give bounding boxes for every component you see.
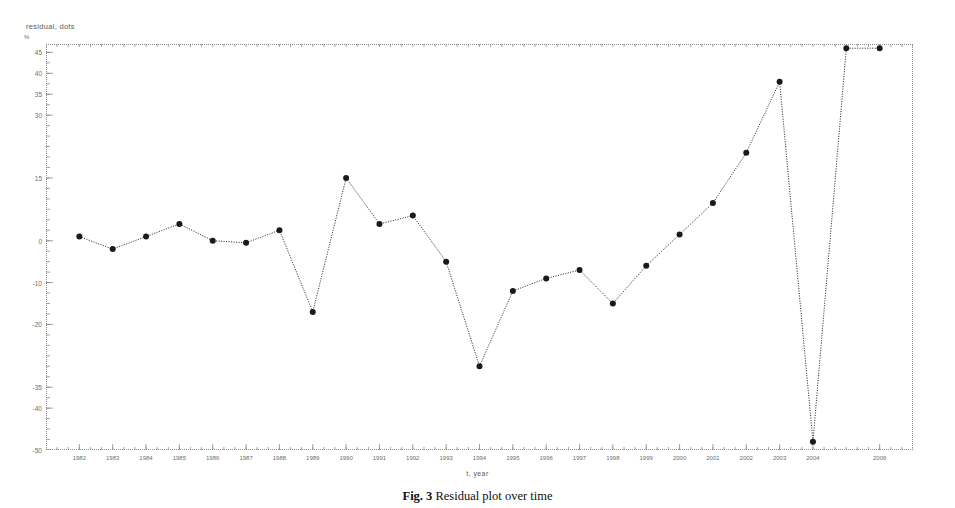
data-point-marker [376, 221, 382, 227]
y-tick-label: -10 [12, 279, 42, 286]
data-line [79, 48, 879, 441]
data-point-marker [777, 79, 783, 85]
residual-line-chart [46, 44, 913, 450]
data-point-marker [810, 439, 816, 445]
data-point-marker [710, 200, 716, 206]
data-point-marker [610, 301, 616, 307]
data-point-marker [343, 175, 349, 181]
y-tick-label: -40 [12, 405, 42, 412]
data-point-marker [310, 309, 316, 315]
y-tick-label: 30 [12, 112, 42, 119]
data-point-marker [677, 231, 683, 237]
data-point-marker [743, 150, 749, 156]
data-point-marker [477, 363, 483, 369]
data-point-marker [110, 246, 116, 252]
x-axis-title: t, year [0, 470, 955, 477]
data-point-marker [210, 238, 216, 244]
y-axis-unit: % [24, 34, 29, 40]
data-point-marker [643, 263, 649, 269]
y-tick-label: -35 [12, 384, 42, 391]
caption-label: Fig. 3 [403, 489, 433, 503]
y-tick-label: -20 [12, 321, 42, 328]
y-tick-label: 40 [12, 70, 42, 77]
data-point-marker [543, 275, 549, 281]
y-tick-label: -50 [12, 447, 42, 454]
figure-container: residual, dots % 45403530150-10-20-35-40… [0, 0, 955, 508]
caption-text: Residual plot over time [432, 489, 552, 503]
y-tick-label: 0 [12, 237, 42, 244]
data-point-marker [276, 227, 282, 233]
data-point-marker [877, 45, 883, 51]
data-point-marker [76, 234, 82, 240]
x-tick-label: 2006 [860, 455, 900, 461]
y-axis-title: residual, dots [26, 22, 75, 31]
data-point-marker [577, 267, 583, 273]
data-point-marker [176, 221, 182, 227]
y-tick-label: 15 [12, 174, 42, 181]
data-point-marker [510, 288, 516, 294]
data-point-marker [443, 259, 449, 265]
y-tick-label: 35 [12, 91, 42, 98]
y-tick-label: 45 [12, 49, 42, 56]
figure-caption: Fig. 3 Residual plot over time [0, 489, 955, 504]
data-point-marker [410, 213, 416, 219]
x-tick-label: 2004 [793, 455, 833, 461]
data-point-marker [243, 240, 249, 246]
data-point-marker [843, 45, 849, 51]
plot-area [46, 44, 913, 450]
data-point-marker [143, 234, 149, 240]
